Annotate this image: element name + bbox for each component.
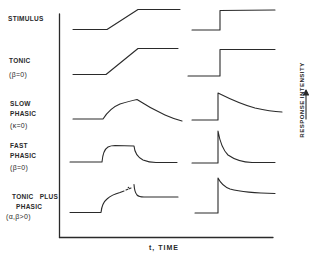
fast-phasic-step-trace bbox=[192, 131, 275, 163]
tonic-plus-phasic-ramp-dash bbox=[126, 188, 131, 190]
fast-phasic-ramp-trace bbox=[70, 146, 177, 163]
tonic-plus-phasic-ramp-trace bbox=[70, 191, 124, 213]
tonic-plus-phasic-step-trace bbox=[195, 178, 275, 213]
response-diagram bbox=[0, 0, 317, 258]
stimulus-step-trace bbox=[192, 10, 275, 30]
tonic-plus-phasic-ramp-peak bbox=[134, 185, 178, 198]
y-axis-label: RESPONSE INTENSITY bbox=[299, 62, 305, 137]
tonic-ramp-trace bbox=[73, 49, 178, 75]
tonic-step-trace bbox=[188, 50, 275, 77]
stimulus-ramp-trace bbox=[73, 10, 180, 30]
slow-phasic-step-trace bbox=[192, 93, 282, 120]
x-axis-label: t, TIME bbox=[149, 244, 179, 251]
slow-phasic-ramp-trace bbox=[73, 100, 182, 122]
tonic-plus-phasic-dot bbox=[128, 187, 130, 189]
